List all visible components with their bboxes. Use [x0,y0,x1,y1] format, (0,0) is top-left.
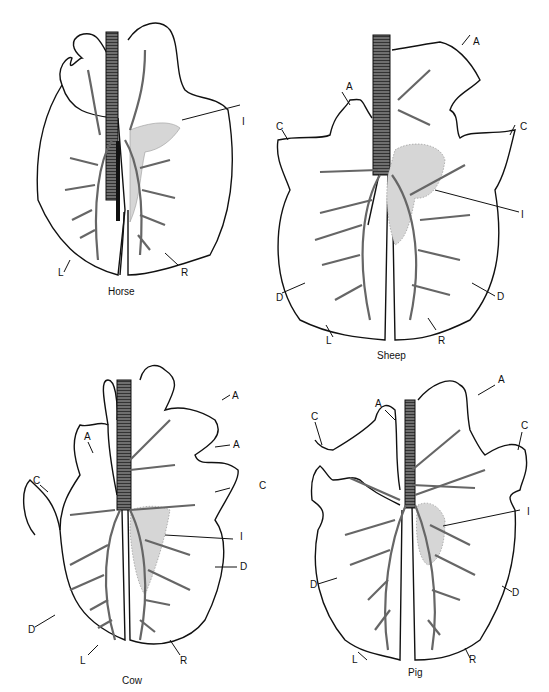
horse-caption: Horse [108,287,135,297]
sheep-intermediate-lobe [387,144,445,245]
cow-label-apical-3: A [233,440,240,450]
sheep-label-diaphragmatic-left: D [276,293,283,303]
cow-label-apical-2: A [84,432,91,442]
pig-trachea [405,400,415,508]
pig-caption: Pig [408,668,422,678]
cow-label-right: R [180,656,187,666]
cow-label-cardiac-right: C [259,481,266,491]
horse-label-right: R [181,268,188,278]
sheep-label-apical-left: A [346,82,353,92]
sheep-label-left: L [326,336,332,346]
pig-label-apical-left: A [375,399,382,409]
pig-label-apical-right: A [498,375,505,385]
pig-intermediate-lobe [416,503,445,565]
pig-label-diaphragmatic-left: D [310,580,317,590]
cow-label-diaphragmatic-right: D [240,562,247,572]
sheep-label-cardiac-right: C [520,122,527,132]
lung-diagrams [0,0,549,692]
pig-label-right: R [469,655,476,665]
cow-intermediate-lobe [130,506,170,595]
pig-label-cardiac-left: C [311,412,318,422]
horse-label-left: L [58,268,64,278]
horse-septum [116,141,120,221]
cow-label-cardiac-left: C [33,476,40,486]
cow-label-intermediate: I [240,532,243,542]
sheep-label-cardiac-left: C [276,122,283,132]
sheep-label-right: R [438,336,445,346]
cow-label-diaphragmatic-left: D [28,625,35,635]
sheep-caption: Sheep [377,351,406,361]
sheep-label-diaphragmatic-right: D [497,292,504,302]
pig-label-cardiac-right: C [521,421,528,431]
sheep-label-apical-right: A [473,37,480,47]
horse-label-intermediate: I [242,117,245,127]
cow-trachea [117,380,131,510]
cow-label-apical-1: A [232,391,239,401]
pig-label-intermediate: I [527,507,530,517]
pig-label-left: L [352,655,358,665]
cow-caption: Cow [122,676,142,686]
cow-label-left: L [80,656,86,666]
sheep-label-intermediate: I [521,210,524,220]
sheep-trachea [373,35,390,175]
pig-label-diaphragmatic-right: D [512,588,519,598]
